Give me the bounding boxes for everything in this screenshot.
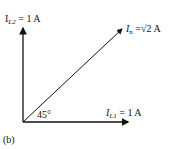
- label-in: In =√2 A: [126, 24, 161, 36]
- label-il1: IL1 = 1 A: [106, 108, 142, 120]
- figure-caption: (b): [3, 135, 15, 145]
- label-il2: IL2 = 1 A: [5, 14, 41, 26]
- angle-label: 45°: [37, 110, 51, 120]
